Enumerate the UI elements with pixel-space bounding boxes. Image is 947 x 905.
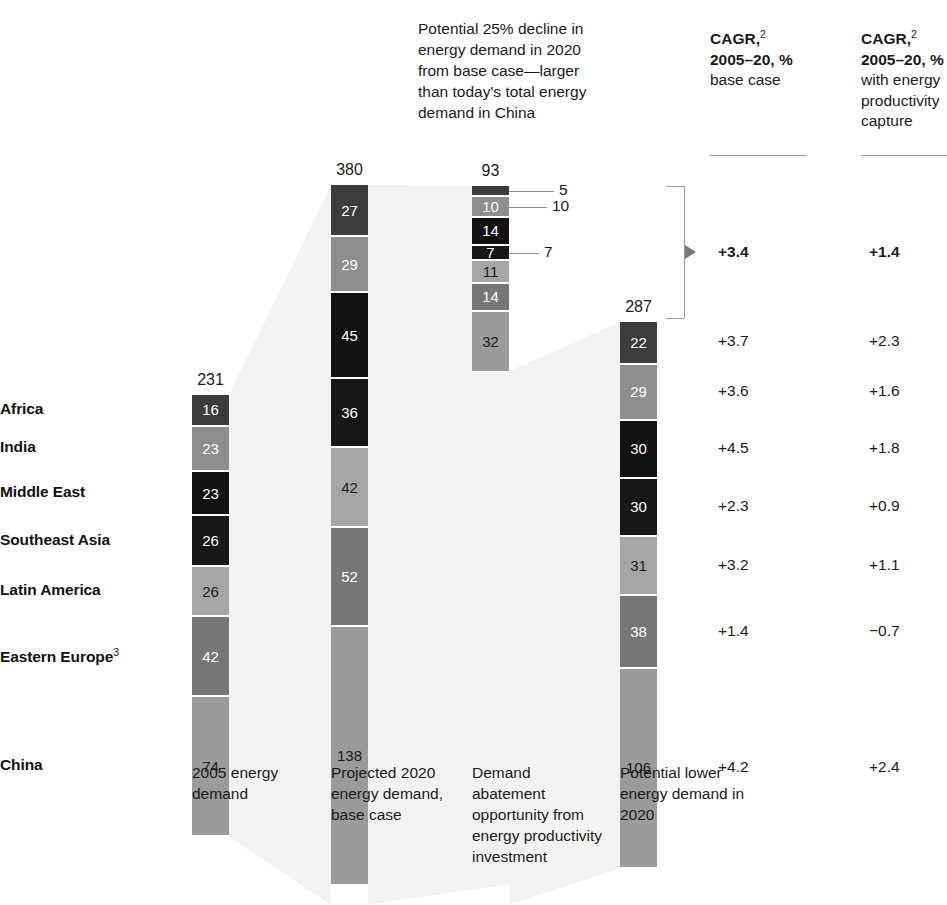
bar-segment-value: 23 — [202, 486, 219, 501]
row-label-india: India — [0, 438, 36, 456]
bar-segment-value: 10 — [482, 199, 499, 214]
bar-segment[interactable] — [472, 186, 509, 195]
bar-segment-value: 32 — [482, 334, 499, 349]
axis-caption-4: Potential lower energy demand in 2020 — [620, 762, 755, 825]
bar-segment[interactable]: 29 — [620, 365, 657, 419]
bar-column-total: 287 — [600, 298, 677, 316]
bar-segment[interactable]: 22 — [620, 322, 657, 363]
bar-segment[interactable]: 52 — [331, 528, 368, 625]
cagr-base-case-southeast-asia: +2.3 — [718, 497, 749, 515]
row-label-southeast-asia: Southeast Asia — [0, 531, 110, 549]
bar-segment-value: 14 — [482, 223, 499, 238]
cagr-with-capture-southeast-asia: +0.9 — [869, 497, 900, 515]
bar-segment-value: 30 — [630, 499, 647, 514]
bar-segment[interactable]: 38 — [620, 596, 657, 667]
bar-segment[interactable]: 45 — [331, 293, 368, 377]
bar-segment-value: 26 — [202, 584, 219, 599]
bar-segment[interactable]: 31 — [620, 537, 657, 595]
row-label-text: Latin America — [0, 581, 101, 598]
bar-segment-value: 23 — [202, 441, 219, 456]
row-label-africa: Africa — [0, 400, 43, 418]
cagr-header-1-line3: base case — [710, 71, 781, 88]
bar-segment[interactable]: 30 — [620, 479, 657, 535]
cagr-header-1-line1: CAGR, — [710, 30, 760, 47]
bar-column-total: 380 — [311, 161, 388, 179]
cagr-base-case-africa: +3.7 — [718, 332, 749, 350]
row-label-latin-america: Latin America — [0, 581, 101, 599]
row-label-text: Eastern Europe — [0, 649, 113, 666]
bracket-arrow-icon — [685, 245, 696, 259]
cagr-header-rule-2 — [861, 155, 947, 156]
bar-segment[interactable]: 26 — [192, 567, 229, 615]
bar-segment[interactable]: 10 — [472, 197, 509, 216]
axis-caption-2: Projected 2020 energy demand, base case — [331, 762, 466, 825]
row-label-eastern-europe: Eastern Europe3 — [0, 646, 119, 666]
bar-segment[interactable]: 23 — [192, 472, 229, 515]
cagr-base-case-middle-east: +4.5 — [718, 439, 749, 457]
bar-segment[interactable]: 138 — [331, 627, 368, 884]
bar-segment-value: 36 — [341, 405, 358, 420]
bar-segment-value: 14 — [482, 289, 499, 304]
axis-caption-1: 2005 energy demand — [192, 762, 327, 804]
leader-line — [509, 253, 539, 254]
axis-caption-3: Demand abatement opportunity from energy… — [472, 762, 607, 867]
bar-segment[interactable]: 11 — [472, 261, 509, 281]
bar-segment-value: 26 — [202, 533, 219, 548]
cagr-with-capture-eastern-europe: −0.7 — [869, 622, 900, 640]
bar-segment[interactable]: 36 — [331, 379, 368, 446]
bar-segment[interactable]: 42 — [192, 617, 229, 695]
bar-segment[interactable]: 27 — [331, 185, 368, 235]
cagr-header-2-line2: 2005–20, % — [861, 51, 944, 68]
bar-segment[interactable]: 26 — [192, 516, 229, 564]
bar-segment[interactable]: 16 — [192, 395, 229, 425]
bar-segment-value: 22 — [630, 335, 647, 350]
row-label-footnote: 3 — [113, 646, 119, 658]
bar-segment-value: 52 — [341, 569, 358, 584]
bar-segment[interactable]: 42 — [331, 448, 368, 526]
row-label-china: China — [0, 756, 43, 774]
bar-segment[interactable]: 23 — [192, 427, 229, 470]
cagr-header-base-case: CAGR,2 2005–20, % base case — [710, 24, 830, 91]
cagr-base-case-eastern-europe: +1.4 — [718, 622, 749, 640]
bar-segment[interactable]: 29 — [331, 237, 368, 291]
cagr-header-1-line2: 2005–20, % — [710, 51, 793, 68]
bar-segment[interactable]: 30 — [620, 421, 657, 477]
row-label-text: Africa — [0, 400, 43, 417]
bracket-bottom-tick — [666, 318, 684, 319]
bar-column-total: 93 — [452, 162, 529, 180]
cagr-total-base-case: +3.4 — [718, 243, 749, 261]
leader-line — [509, 207, 547, 208]
cagr-header-2-footnote: 2 — [911, 28, 917, 40]
bar-segment-value: 27 — [341, 203, 358, 218]
bar-segment[interactable]: 14 — [472, 284, 509, 310]
cagr-with-capture-africa: +2.3 — [869, 332, 900, 350]
bar-column-total: 231 — [172, 371, 249, 389]
bar-segment-value: 31 — [630, 558, 647, 573]
cagr-with-capture-china: +2.4 — [869, 758, 900, 776]
cagr-base-case-latin-america: +3.2 — [718, 556, 749, 574]
row-label-text: China — [0, 756, 43, 773]
bar-segment[interactable]: 32 — [472, 312, 509, 372]
leader-line — [509, 191, 554, 192]
bar-segment-value: 29 — [341, 257, 358, 272]
bar-segment[interactable]: 7 — [472, 246, 509, 259]
bar-segment-value: 42 — [202, 649, 219, 664]
bar-segment-value: 7 — [486, 246, 494, 259]
bar-segment[interactable]: 14 — [472, 218, 509, 244]
row-label-middle-east: Middle East — [0, 483, 85, 501]
cagr-with-capture-latin-america: +1.1 — [869, 556, 900, 574]
bar-segment-value: 16 — [202, 402, 219, 417]
cagr-with-capture-middle-east: +1.8 — [869, 439, 900, 457]
cagr-header-rule-1 — [710, 155, 807, 156]
leader-value: 7 — [544, 243, 553, 261]
bar-segment-value: 42 — [341, 480, 358, 495]
bar-segment-value: 30 — [630, 441, 647, 456]
bar-segment-value: 38 — [630, 624, 647, 639]
leader-value: 10 — [552, 197, 569, 215]
bar-segment-value: 45 — [341, 328, 358, 343]
cagr-base-case-india: +3.6 — [718, 382, 749, 400]
row-label-text: Southeast Asia — [0, 531, 110, 548]
row-label-text: India — [0, 438, 36, 455]
cagr-header-2-line1: CAGR, — [861, 30, 911, 47]
cagr-header-1-footnote: 2 — [760, 28, 766, 40]
